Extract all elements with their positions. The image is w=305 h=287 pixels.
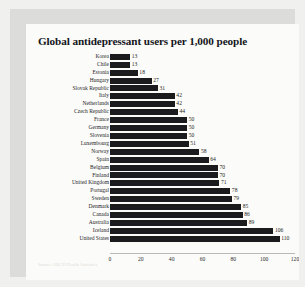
bar-row: Czech Republic44 (26, 108, 299, 116)
category-label: Finland (92, 173, 109, 179)
x-tick-label: 40 (169, 257, 175, 263)
bar-track: 110 (110, 235, 295, 243)
bar-value-label: 42 (175, 94, 182, 100)
bar-value-label: 86 (243, 212, 250, 218)
bar-track: 78 (110, 187, 295, 195)
bar (110, 220, 247, 226)
bar (110, 149, 199, 155)
bar-row: Spain64 (26, 156, 299, 164)
bar-row: Norway58 (26, 148, 299, 156)
bar (110, 54, 130, 60)
category-label: Chile (97, 62, 109, 68)
bar-row: Portugal78 (26, 187, 299, 195)
category-label: Luxembourg (81, 141, 109, 147)
bar-row: Estonia18 (26, 69, 299, 77)
x-tick-label: 100 (260, 257, 268, 263)
category-label: Slovak Republic (72, 86, 109, 92)
chart-card: Global antidepressant users per 1,000 pe… (26, 24, 299, 280)
bar-row: Netherlands42 (26, 100, 299, 108)
category-label: Italy (99, 94, 109, 100)
bar (110, 62, 130, 68)
bar-value-label: 44 (178, 110, 185, 116)
bar (110, 228, 273, 234)
bar-row: Belgium70 (26, 164, 299, 172)
bar-value-label: 51 (189, 141, 196, 147)
source-note: Source: OECD Health Statistics (38, 262, 97, 267)
bar (110, 70, 138, 76)
bar-row: Iceland106 (26, 227, 299, 235)
bar-value-label: 27 (152, 78, 159, 84)
bar-track: 42 (110, 93, 295, 101)
bar-row: Denmark85 (26, 203, 299, 211)
bar (110, 188, 230, 194)
category-label: Estonia (93, 70, 110, 76)
x-tick-label: 80 (231, 257, 237, 263)
bar-track: 70 (110, 164, 295, 172)
category-label: Iceland (93, 228, 109, 234)
bar-track: 70 (110, 172, 295, 180)
bar-value-label: 64 (209, 157, 216, 163)
category-label: Netherlands (82, 102, 109, 108)
bar (110, 117, 187, 123)
bar-track: 50 (110, 124, 295, 132)
category-label: Slovenia (90, 133, 109, 139)
category-label: Canada (93, 212, 110, 218)
bar-track: 106 (110, 227, 295, 235)
bar-value-label: 70 (218, 165, 225, 171)
image-frame: Global antidepressant users per 1,000 pe… (10, 9, 295, 277)
bar (110, 85, 158, 91)
bar-track: 51 (110, 140, 295, 148)
bar-value-label: 106 (273, 228, 283, 234)
bar-row: Australia89 (26, 219, 299, 227)
bar-value-label: 50 (187, 117, 194, 123)
category-label: Belgium (90, 165, 109, 171)
bar-row: Finland70 (26, 172, 299, 180)
bar-value-label: 50 (187, 125, 194, 131)
bar-track: 44 (110, 108, 295, 116)
bar-row: Sweden79 (26, 195, 299, 203)
bar-row: United States110 (26, 235, 299, 243)
category-label: Sweden (92, 197, 109, 203)
chart-title: Global antidepressant users per 1,000 pe… (38, 35, 247, 47)
bar-track: 50 (110, 132, 295, 140)
bar-value-label: 79 (232, 196, 239, 202)
bar (110, 212, 243, 218)
bar-track: 71 (110, 180, 295, 188)
bar-value-label: 18 (138, 70, 145, 76)
bar-value-label: 13 (130, 62, 137, 68)
bar-row: Korea13 (26, 53, 299, 61)
bar-value-label: 71 (219, 181, 226, 187)
bar-track: 85 (110, 203, 295, 211)
bar-row: Hungary27 (26, 77, 299, 85)
bar-row: Luxembourg51 (26, 140, 299, 148)
x-axis-line (110, 253, 295, 254)
x-tick-label: 0 (109, 257, 112, 263)
bar (110, 109, 178, 115)
bar-value-label: 31 (158, 86, 165, 92)
bar-track: 42 (110, 100, 295, 108)
category-label: Hungary (90, 78, 109, 84)
bar (110, 157, 209, 163)
bar-track: 86 (110, 211, 295, 219)
bar-row: United Kingdom71 (26, 180, 299, 188)
category-label: Denmark (89, 204, 109, 210)
bar (110, 93, 175, 99)
category-label: Australia (89, 220, 109, 226)
bar-track: 13 (110, 61, 295, 69)
bar-value-label: 58 (199, 149, 206, 155)
bar (110, 141, 189, 147)
bar (110, 125, 187, 131)
bar-value-label: 13 (130, 54, 137, 60)
bar-row: France50 (26, 116, 299, 124)
bar-track: 64 (110, 156, 295, 164)
bar-track: 89 (110, 219, 295, 227)
bar-track: 31 (110, 85, 295, 93)
chart-screenshot: Global antidepressant users per 1,000 pe… (0, 0, 305, 287)
x-tick-label: 20 (138, 257, 144, 263)
bar-track: 79 (110, 195, 295, 203)
bar (110, 133, 187, 139)
category-label: Korea (96, 54, 109, 60)
bar (110, 78, 152, 84)
bar-row: Chile13 (26, 61, 299, 69)
bar-value-label: 50 (187, 133, 194, 139)
